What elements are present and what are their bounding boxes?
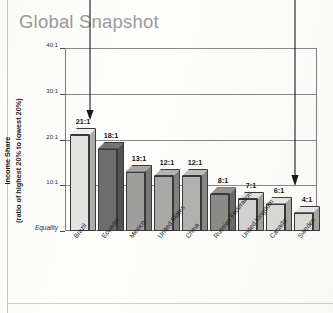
- bars-container: [65, 48, 317, 231]
- bar-front-face: [70, 135, 89, 231]
- bar-value-label: 4:1: [302, 195, 312, 204]
- bar-side-face: [201, 169, 208, 231]
- bar-value-label: 6:1: [274, 186, 284, 195]
- bar-side-face: [89, 128, 96, 231]
- bar-value-label: 7:1: [246, 181, 256, 190]
- bar-side-face: [145, 165, 152, 231]
- bar-value-label: 12:1: [160, 158, 174, 167]
- y-axis-title: Income Share (ratio of highest 20% to lo…: [3, 86, 24, 236]
- bar-value-label: 21:1: [76, 117, 90, 126]
- bar: [182, 176, 201, 231]
- scanned-page: Global Snapshot Income Share (ratio of h…: [0, 0, 333, 313]
- bar-value-label: 12:1: [188, 158, 202, 167]
- y-axis-title-line1: Income Share: [3, 86, 14, 236]
- y-axis-tick-label: 30:1: [0, 88, 58, 94]
- y-axis-tick-label: 20:1: [0, 134, 58, 140]
- bar: [70, 135, 89, 231]
- bar-value-label: 18:1: [104, 131, 118, 140]
- y-axis-tick-label: 40:1: [0, 42, 58, 48]
- y-axis-tick-label: 10:1: [0, 179, 58, 185]
- y-axis-tick-label: Equality: [0, 224, 58, 231]
- y-axis-title-line2: (ratio of highest 20% to lowest 20%): [14, 86, 25, 236]
- bar-value-label: 8:1: [218, 176, 228, 185]
- page-bottom-rule: [7, 303, 333, 304]
- y-axis-tick: [60, 231, 65, 232]
- bar-front-face: [182, 176, 201, 231]
- bar-value-label: 13:1: [132, 154, 146, 163]
